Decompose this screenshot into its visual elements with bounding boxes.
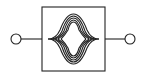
- bell-curves-icon: [48, 14, 99, 64]
- output-terminal-icon[interactable]: [125, 34, 135, 44]
- input-terminal-icon[interactable]: [11, 34, 21, 44]
- schematic-symbol: [0, 0, 143, 77]
